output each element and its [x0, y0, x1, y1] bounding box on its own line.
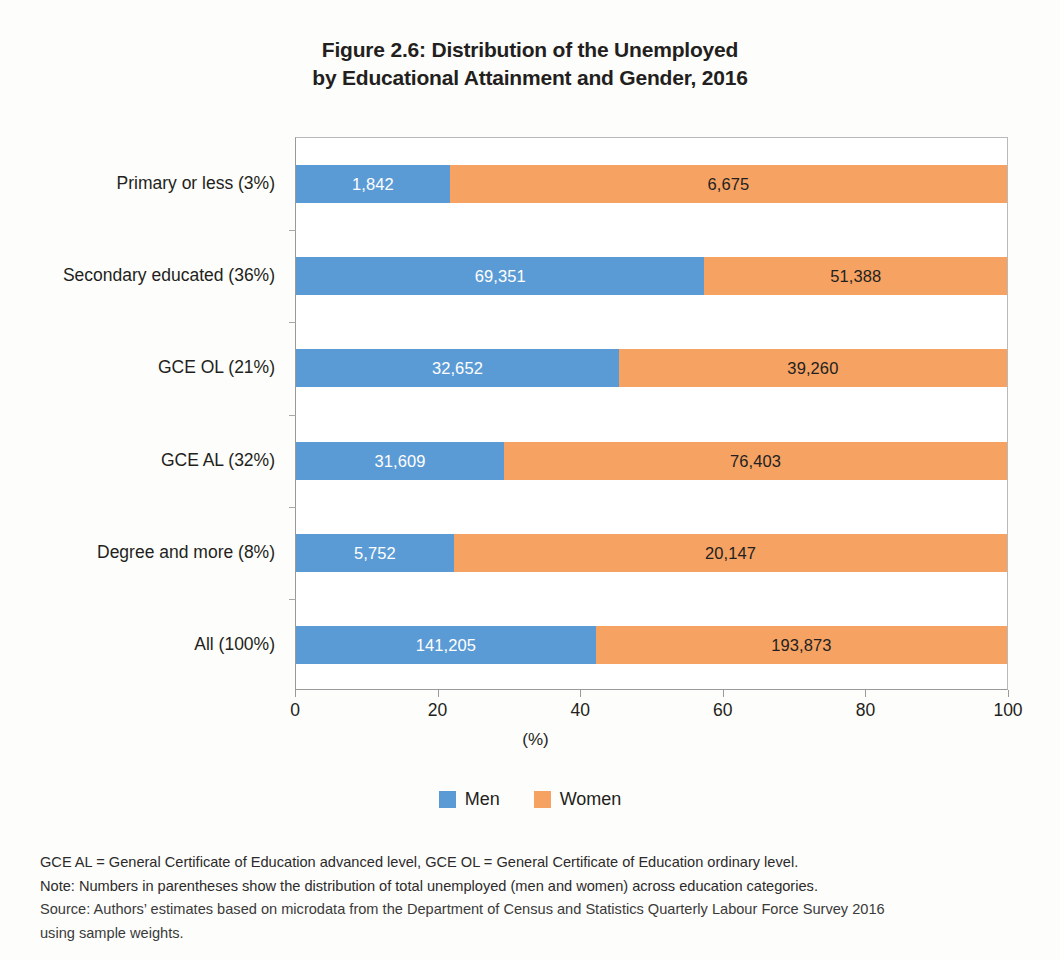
x-axis-tick-label: 60: [713, 700, 732, 721]
x-axis-tick-label: 80: [856, 700, 875, 721]
bar-segment-women: 39,260: [619, 349, 1007, 387]
bar-segment-women: 193,873: [596, 626, 1007, 664]
y-axis-category-label: All (100%): [194, 634, 275, 655]
x-axis-title-text: (%): [522, 730, 548, 749]
x-axis-tick: [438, 690, 439, 697]
y-axis-tick: [289, 230, 296, 231]
legend-swatch-men: [439, 791, 456, 808]
chart-legend: MenWomen: [0, 789, 1060, 810]
bar-value-label-women: 51,388: [830, 267, 881, 286]
y-axis-tick: [289, 415, 296, 416]
legend-label: Men: [465, 789, 500, 810]
bar-segment-men: 69,351: [296, 257, 704, 295]
y-axis-category-label: GCE AL (32%): [161, 450, 275, 471]
bar-segment-men: 1,842: [296, 165, 450, 203]
bar-value-label-men: 1,842: [352, 175, 394, 194]
bar-value-label-men: 32,652: [432, 359, 483, 378]
bar-value-label-women: 6,675: [707, 175, 749, 194]
y-axis-category-label: Primary or less (3%): [117, 173, 276, 194]
bar-value-label-women: 76,403: [730, 452, 781, 471]
bar-row: 1,8426,675: [296, 165, 1007, 203]
bar-row: 31,60976,403: [296, 442, 1007, 480]
x-axis-tick-label: 100: [993, 700, 1022, 721]
y-axis-category-label: GCE OL (21%): [158, 357, 275, 378]
x-axis-tick: [865, 690, 866, 697]
bar-row: 5,75220,147: [296, 534, 1007, 572]
x-axis-tick-label: 0: [290, 700, 300, 721]
y-axis-tick: [289, 507, 296, 508]
bar-segment-women: 20,147: [454, 534, 1007, 572]
bar-value-label-women: 39,260: [787, 359, 838, 378]
bar-value-label-men: 69,351: [475, 267, 526, 286]
y-axis-tick: [289, 599, 296, 600]
legend-item[interactable]: Women: [534, 789, 622, 810]
x-axis-tick: [1008, 690, 1009, 697]
bar-segment-women: 76,403: [504, 442, 1007, 480]
legend-swatch-women: [534, 791, 551, 808]
bar-segment-men: 141,205: [296, 626, 596, 664]
bar-row: 141,205193,873: [296, 626, 1007, 664]
y-axis-category-label: Degree and more (8%): [97, 542, 275, 563]
y-axis-category-label: Secondary educated (36%): [63, 265, 275, 286]
bar-segment-men: 32,652: [296, 349, 619, 387]
footnote-source: Source: Authors’ estimates based on micr…: [40, 898, 1040, 922]
stacked-bar-chart: 1,8426,67569,35151,38832,65239,26031,609…: [0, 0, 1060, 960]
bar-value-label-men: 141,205: [416, 636, 476, 655]
bar-segment-women: 6,675: [450, 165, 1007, 203]
bar-value-label-men: 5,752: [354, 544, 396, 563]
x-axis-tick: [723, 690, 724, 697]
bar-value-label-women: 193,873: [771, 636, 831, 655]
x-axis-tick: [295, 690, 296, 697]
bar-value-label-men: 31,609: [374, 452, 425, 471]
bar-segment-men: 5,752: [296, 534, 454, 572]
bar-row: 32,65239,260: [296, 349, 1007, 387]
x-axis-tick: [580, 690, 581, 697]
footnote-source-continued: using sample weights.: [40, 922, 1040, 946]
bar-segment-women: 51,388: [704, 257, 1007, 295]
bar-row: 69,35151,388: [296, 257, 1007, 295]
legend-label: Women: [560, 789, 622, 810]
bar-segment-men: 31,609: [296, 442, 504, 480]
legend-item[interactable]: Men: [439, 789, 500, 810]
footnote-abbreviations: GCE AL = General Certificate of Educatio…: [40, 851, 1040, 875]
x-axis-title: (%): [0, 730, 1060, 750]
x-axis-tick-label: 20: [428, 700, 447, 721]
y-axis-tick: [289, 322, 296, 323]
bar-value-label-women: 20,147: [705, 544, 756, 563]
footnotes: GCE AL = General Certificate of Educatio…: [40, 851, 1040, 945]
x-axis-tick-label: 40: [570, 700, 589, 721]
footnote-note: Note: Numbers in parentheses show the di…: [40, 875, 1040, 899]
plot-area: 1,8426,67569,35151,38832,65239,26031,609…: [295, 137, 1008, 690]
